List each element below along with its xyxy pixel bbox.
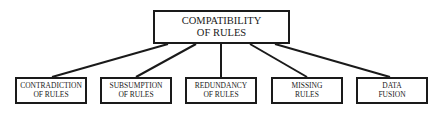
- child-node-subsumption-of-rules: SUBSUMPTION OF RULES: [100, 77, 172, 104]
- connector-missing: [250, 44, 307, 77]
- child-node-missing-rules: MISSING RULES: [271, 77, 343, 104]
- child-label-line2: OF RULES: [203, 91, 238, 99]
- root-label-line2: OF RULES: [197, 27, 246, 39]
- child-label-line2: OF RULES: [33, 91, 68, 99]
- root-node-compatibility-of-rules: COMPATIBILITY OF RULES: [153, 10, 290, 44]
- child-label-line2: RULES: [295, 91, 319, 99]
- child-label-line2: OF RULES: [118, 91, 153, 99]
- child-label-line2: FUSION: [378, 91, 405, 99]
- root-label-line1: COMPATIBILITY: [182, 15, 262, 27]
- connector-data-fusion: [275, 44, 390, 77]
- child-node-data-fusion: DATA FUSION: [356, 77, 428, 104]
- child-node-redundancy-of-rules: REDUNDANCY OF RULES: [185, 77, 257, 104]
- connector-contradiction: [52, 44, 168, 77]
- child-node-contradiction-of-rules: CONTRADICTION OF RULES: [15, 77, 87, 104]
- connector-subsumption: [136, 44, 196, 77]
